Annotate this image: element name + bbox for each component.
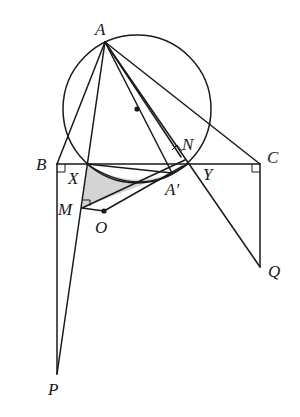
segment-AA-prime — [105, 42, 172, 173]
segment-AN — [105, 42, 181, 157]
label-O: O — [95, 218, 107, 237]
label-A-prime: A′ — [164, 180, 179, 199]
label-N: N — [181, 135, 195, 154]
point-O-dot — [101, 208, 106, 213]
label-X: X — [67, 169, 79, 188]
label-M: M — [57, 200, 73, 219]
segment-AQ — [105, 42, 260, 267]
label-Q: Q — [268, 262, 280, 281]
segment-MO — [82, 208, 104, 211]
right-angle-mark-B — [57, 164, 65, 172]
geometry-figure: A B C X Y N A′ M O P Q — [0, 0, 300, 417]
right-angle-mark-C — [252, 164, 260, 172]
label-P: P — [47, 380, 58, 399]
diagram-canvas: A B C X Y N A′ M O P Q — [0, 0, 300, 417]
label-C: C — [267, 148, 279, 167]
label-A: A — [94, 20, 106, 39]
label-Y: Y — [203, 165, 214, 184]
label-B: B — [36, 155, 47, 174]
